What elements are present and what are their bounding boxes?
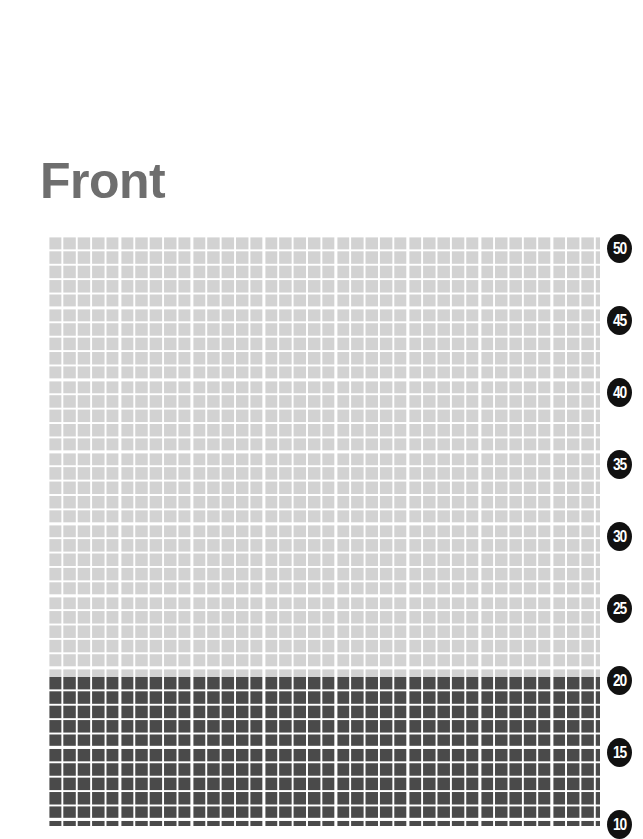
page-title: Front	[40, 152, 165, 210]
scale-badge-35: 35	[607, 450, 632, 479]
graph-paper-grid	[48, 236, 600, 826]
scale-badge-45: 45	[607, 306, 632, 335]
grid-band-dark	[48, 677, 600, 826]
scale-badge-20: 20	[607, 666, 632, 695]
scale-badge-30: 30	[607, 522, 632, 551]
scale-badge-15: 15	[607, 738, 632, 767]
scale-badge-25: 25	[607, 594, 632, 623]
scale-badge-40: 40	[607, 378, 632, 407]
grid-band-light	[48, 236, 600, 677]
scale-badge-50: 50	[607, 234, 632, 263]
scale-badge-10: 10	[607, 810, 632, 839]
